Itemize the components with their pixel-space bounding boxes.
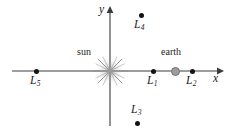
lagrange-label-L3-letter: L xyxy=(131,103,138,115)
lagrange-label-L1-subscript: 1 xyxy=(154,79,158,88)
lagrange-label-L4-letter: L xyxy=(134,18,141,30)
lagrange-point-L5 xyxy=(34,69,39,74)
lagrange-point-L1 xyxy=(151,69,156,74)
lagrange-label-L4: L4 xyxy=(134,19,144,31)
lagrange-points-figure: sun earth L5 L1 L2 L4 L3 x y xyxy=(0,0,230,136)
earth-label: earth xyxy=(161,47,181,57)
lagrange-label-L5: L5 xyxy=(30,75,40,87)
lagrange-point-L4 xyxy=(139,13,144,18)
sun-label: sun xyxy=(77,47,91,57)
x-axis-label: x xyxy=(213,73,218,85)
lagrange-point-L2 xyxy=(190,69,195,74)
lagrange-label-L3: L3 xyxy=(131,104,141,116)
lagrange-label-L4-subscript: 4 xyxy=(141,23,145,32)
lagrange-label-L2: L2 xyxy=(186,75,196,87)
lagrange-point-L3 xyxy=(135,121,140,126)
lagrange-label-L5-letter: L xyxy=(30,74,37,86)
y-axis-arrowhead xyxy=(107,6,114,13)
coordinate-axes xyxy=(0,0,230,136)
sun-starburst-icon xyxy=(0,0,230,136)
lagrange-label-L1: L1 xyxy=(147,75,157,87)
earth-body-icon xyxy=(171,67,180,76)
lagrange-label-L2-subscript: 2 xyxy=(193,79,197,88)
lagrange-label-L5-subscript: 5 xyxy=(37,79,41,88)
lagrange-label-L3-subscript: 3 xyxy=(138,108,142,117)
lagrange-label-L1-letter: L xyxy=(147,74,154,86)
lagrange-label-L2-letter: L xyxy=(186,74,193,86)
y-axis-label: y xyxy=(99,4,104,16)
